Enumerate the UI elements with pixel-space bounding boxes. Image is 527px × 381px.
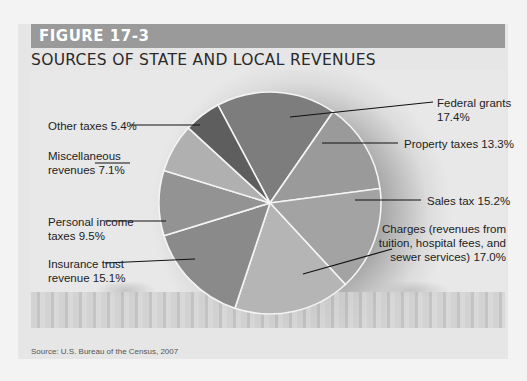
label-misc-line1: Miscellaneous (48, 149, 125, 163)
label-federal-grants: Federal grants 17.4% (437, 96, 527, 124)
label-insurance-line2: revenue 15.1% (48, 271, 125, 285)
label-charges-line1: Charges (revenues from (379, 222, 506, 236)
label-other-taxes: Other taxes 5.4% (48, 119, 137, 133)
label-miscellaneous: Miscellaneous revenues 7.1% (48, 149, 125, 177)
source-note: Source: U.S. Bureau of the Census, 2007 (31, 347, 178, 356)
pie-chart (0, 0, 527, 381)
label-personal-line2: taxes 9.5% (48, 229, 134, 243)
label-personal-line1: Personal income (48, 215, 134, 229)
label-charges: Charges (revenues from tuition, hospital… (379, 222, 506, 264)
label-insurance-line1: Insurance trust (48, 257, 125, 271)
label-insurance-trust: Insurance trust revenue 15.1% (48, 257, 125, 285)
label-misc-line2: revenues 7.1% (48, 163, 125, 177)
label-charges-line3: sewer services) 17.0% (379, 250, 506, 264)
label-charges-line2: tuition, hospital fees, and (379, 236, 506, 250)
label-personal-income: Personal income taxes 9.5% (48, 215, 134, 243)
label-sales-tax: Sales tax 15.2% (427, 194, 510, 208)
label-property-taxes: Property taxes 13.3% (404, 137, 514, 151)
